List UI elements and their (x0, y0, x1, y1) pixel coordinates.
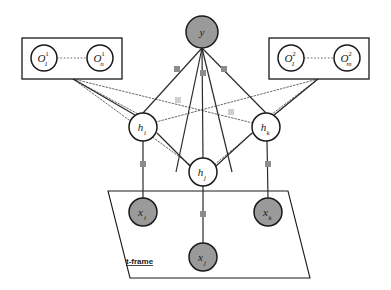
node-h_j-label: h (198, 166, 204, 178)
node-h_i: hi (129, 113, 157, 141)
node-O_m_2-superscript: 2 (348, 50, 352, 58)
node-x_i-circle (129, 198, 157, 226)
node-O_m_2-subscript: m (346, 60, 351, 68)
node-O_1_1: O11 (31, 45, 57, 71)
node-x_i-subscript: i (144, 214, 146, 222)
edge-solid-y-hj (202, 48, 203, 158)
node-O_1_2: O12 (278, 45, 304, 71)
edge-solid-hk-hj (216, 133, 252, 166)
probabilistic-graphical-model-diagram: t-frameO11On1O12Om2hihjhkxixjxky (0, 0, 391, 290)
node-O_1_2-subscript: 1 (291, 60, 295, 68)
edge-solid-hk-xk (267, 141, 268, 198)
node-y-label: y (199, 26, 205, 38)
edge-solid-rbox-hk (274, 79, 318, 115)
node-h_j: hj (189, 158, 217, 186)
diagram-canvas: t-frameO11On1O12Om2hihjhkxixjxky (0, 0, 391, 290)
node-O_1_1-subscript: 1 (44, 60, 48, 68)
node-y: y (186, 16, 218, 48)
node-O_1_2-superscript: 2 (292, 50, 296, 58)
node-h_i-subscript: i (144, 129, 146, 137)
node-x_k: xk (254, 198, 282, 226)
edge-solid-y-hk (202, 48, 266, 113)
node-x_k-label: x (262, 206, 268, 218)
edge-solid-hi-hj (157, 133, 190, 166)
node-O_1_1-superscript: 1 (45, 50, 49, 58)
node-x_i-label: x (137, 206, 143, 218)
factor-square-f-mid-right (228, 109, 234, 115)
factor-square-f-y-mid (200, 70, 206, 76)
factor-square-f-hj-xj (200, 211, 206, 217)
factor-square-f-mid-left (175, 97, 181, 103)
edge-solid-y-mid2 (202, 48, 232, 172)
node-x_j-subscript: j (203, 259, 206, 267)
node-h_j-subscript: j (203, 174, 206, 182)
factor-square-f-hi-xi (140, 161, 146, 167)
t-frame-label: t-frame (126, 257, 154, 266)
node-x_k-circle (254, 198, 282, 226)
factor-square-f-y-left (174, 66, 180, 72)
node-O_n_1-subscript: n (100, 60, 104, 68)
factor-square-f-hk-xk (265, 161, 271, 167)
node-O_n_1-superscript: 1 (101, 50, 105, 58)
node-O_n_1: On1 (87, 45, 113, 71)
node-x_j: xj (189, 243, 217, 271)
node-h_i-label: h (138, 121, 144, 133)
node-x_j-label: x (197, 251, 203, 263)
factor-square-f-y-right (221, 66, 227, 72)
node-x_i: xi (129, 198, 157, 226)
node-h_k: hk (252, 113, 280, 141)
edge-solid-lbox-hi (73, 79, 135, 115)
node-O_m_2: Om2 (334, 45, 360, 71)
edge-dotted-lbox-hk (73, 79, 253, 123)
node-x_j-circle (189, 243, 217, 271)
